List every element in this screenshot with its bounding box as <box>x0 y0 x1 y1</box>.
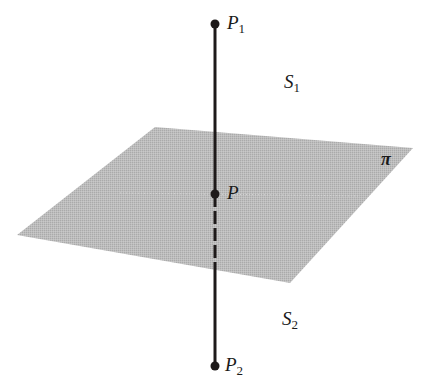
label-s1: S1 <box>284 72 300 94</box>
label-p2-name: P <box>225 354 237 375</box>
diagram-canvas <box>0 0 425 382</box>
label-s2-sub: 2 <box>292 317 299 332</box>
label-p: P <box>227 183 239 202</box>
label-p1: P1 <box>227 13 245 35</box>
point-p1 <box>211 20 220 29</box>
label-s1-sub: 1 <box>294 80 301 95</box>
label-s1-name: S <box>284 71 294 92</box>
point-p <box>211 190 220 199</box>
label-p1-name: P <box>227 12 239 33</box>
label-s2: S2 <box>282 309 298 331</box>
label-p2: P2 <box>225 355 243 377</box>
label-pi-text: π <box>381 149 391 169</box>
label-p-name: P <box>227 182 239 203</box>
point-p2 <box>211 362 220 371</box>
label-pi: π <box>381 150 391 168</box>
label-s2-name: S <box>282 308 292 329</box>
label-p2-sub: 2 <box>237 363 244 378</box>
label-p1-sub: 1 <box>239 21 246 36</box>
